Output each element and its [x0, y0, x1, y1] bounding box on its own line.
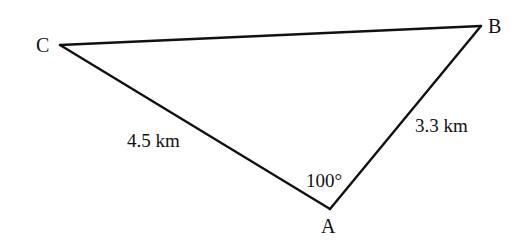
vertex-label-a: A: [321, 215, 336, 237]
vertex-label-c: C: [36, 34, 49, 56]
triangle-diagram: C B A 4.5 km 3.3 km 100°: [0, 0, 523, 248]
side-label-ca: 4.5 km: [127, 130, 180, 151]
side-cb: [60, 26, 481, 45]
angle-label-a: 100°: [306, 170, 342, 191]
side-label-ab: 3.3 km: [415, 115, 468, 136]
side-ca: [60, 45, 330, 209]
vertex-label-b: B: [488, 15, 501, 37]
